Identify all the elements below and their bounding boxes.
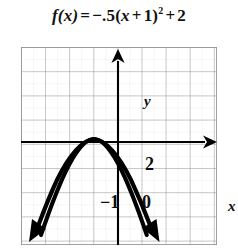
- tick-label-0: 0: [142, 193, 151, 211]
- formula-inner-plus: +: [130, 6, 144, 25]
- y-axis-label: y: [144, 94, 151, 109]
- parabola-figure: f(x)=−.5(x+1)2+2: [0, 0, 238, 251]
- formula-equals: =: [78, 6, 92, 25]
- formula-inner-variable: x: [121, 6, 130, 25]
- x-axis-label: x: [228, 199, 236, 214]
- formula-coefficient: −.5: [92, 6, 115, 25]
- graph-panel: y x 2 −1 0 −6: [21, 47, 217, 245]
- tick-label-2: 2: [145, 155, 154, 173]
- graph-canvas: [21, 47, 217, 245]
- function-formula: f(x)=−.5(x+1)2+2: [0, 6, 238, 26]
- formula-outer-plus: +: [163, 6, 177, 25]
- formula-lhs: f(x): [52, 6, 78, 25]
- formula-constant: 2: [177, 6, 186, 25]
- tick-label-neg1: −1: [100, 193, 119, 211]
